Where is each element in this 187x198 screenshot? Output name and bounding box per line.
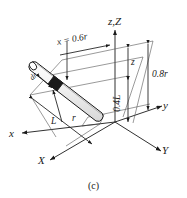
axis-label-y: y bbox=[163, 100, 168, 111]
dim-label-z: z bbox=[131, 58, 135, 68]
axis-x-line bbox=[22, 122, 115, 133]
axis-label-Y-capital: Y bbox=[162, 145, 168, 156]
axis-label-z: z,Z bbox=[108, 16, 121, 27]
rod-body bbox=[28, 61, 103, 122]
figure-container: z,Z x X y Y x = 0.6r z 0.8r 0.4L L r dr … bbox=[0, 0, 187, 198]
dim-label-04L: 0.4L bbox=[113, 95, 123, 112]
dim-label-L: L bbox=[51, 117, 56, 127]
dim-label-08r: 0.8r bbox=[152, 70, 168, 80]
dim-label-r: r bbox=[72, 114, 76, 124]
axis-X-line bbox=[50, 122, 115, 160]
axis-Y-line bbox=[115, 122, 161, 151]
axis-label-x: x bbox=[9, 128, 14, 139]
figure-drawing bbox=[0, 0, 187, 198]
figure-caption: (c) bbox=[88, 180, 99, 191]
axis-label-X-capital: X bbox=[38, 155, 45, 166]
dim-arrow-x bbox=[60, 41, 110, 80]
